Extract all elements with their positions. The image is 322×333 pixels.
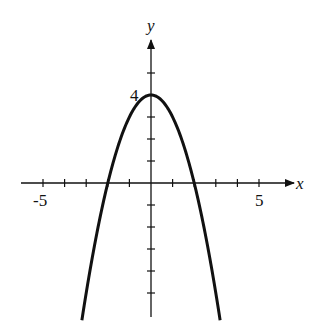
y-axis-label: y [145,16,155,35]
parabola-chart: x y -5 5 4 [0,0,322,333]
y-tick-label-4: 4 [130,86,139,105]
axis-labels: x y -5 5 4 [33,16,304,210]
axes [21,40,294,317]
x-tick-label-5: 5 [255,191,264,210]
x-tick-label-neg5: -5 [33,191,47,210]
x-axis-label: x [295,174,304,193]
